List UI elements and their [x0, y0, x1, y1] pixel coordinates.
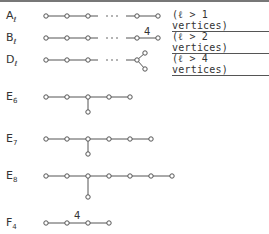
dynkin-graphs — [0, 0, 269, 234]
graph-e8 — [44, 174, 174, 199]
graph-e7 — [44, 137, 153, 156]
graph-a — [44, 14, 160, 18]
graph-f4 — [44, 221, 111, 225]
graph-b — [44, 36, 160, 40]
edge-label-b: 4 — [144, 26, 150, 37]
graph-e6 — [44, 95, 132, 114]
edge-label-f4: 4 — [74, 210, 80, 221]
graph-d — [44, 51, 147, 71]
